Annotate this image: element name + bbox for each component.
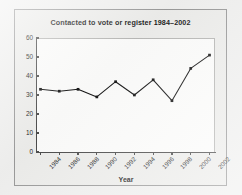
figure-container: Contacted to vote or register 1984–2002 …	[0, 0, 242, 195]
data-point-marker	[133, 94, 136, 97]
data-point-marker	[114, 80, 117, 83]
data-point-marker	[152, 78, 155, 81]
data-point-marker	[189, 67, 192, 70]
x-axis-title: Year	[37, 176, 215, 183]
data-point-marker	[208, 54, 211, 57]
data-point-marker	[171, 99, 174, 102]
data-line	[41, 55, 210, 101]
data-series-layer	[0, 0, 242, 195]
data-point-marker	[95, 96, 98, 99]
data-point-marker	[58, 90, 61, 93]
data-point-marker	[77, 88, 80, 91]
data-point-marker	[39, 88, 42, 91]
